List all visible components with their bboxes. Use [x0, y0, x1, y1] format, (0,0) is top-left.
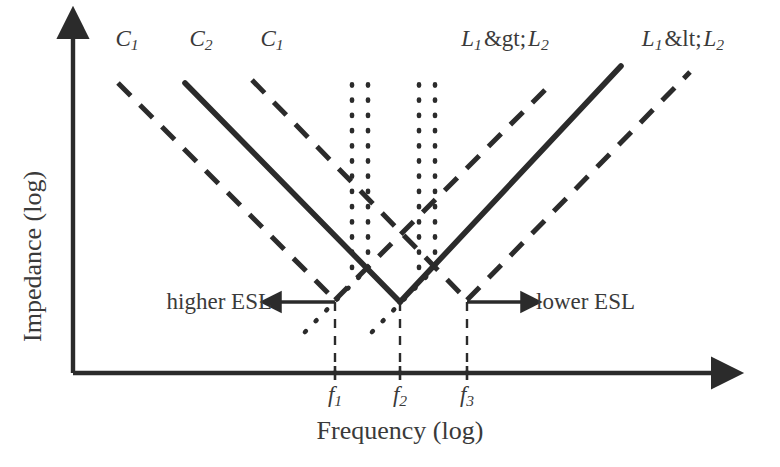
capacitive-branch-left-label: C1: [115, 27, 138, 53]
higher-esl-label: higher ESL: [167, 290, 272, 313]
figure-canvas: C1 C2 C1 L1&gt;L2 L1&lt;L2 higher ESL lo…: [0, 0, 780, 467]
axes-layer: [73, 34, 716, 373]
dotted-resonance-curve-left: [305, 72, 368, 332]
tick-layer: [335, 302, 467, 380]
curve-c2-solid: [185, 66, 621, 302]
y-axis-title: Impedance (log): [20, 171, 46, 342]
tick-label-f2: f2: [393, 383, 407, 409]
curve-c1-l1-dashed: [118, 83, 552, 300]
inductive-branch-higher-esl-label: L1&gt;L2: [461, 27, 548, 53]
impedance-frequency-diagram: [0, 0, 780, 467]
capacitive-branch-mid-label: C2: [189, 27, 212, 53]
lower-esl-label: lower ESL: [536, 290, 635, 313]
capacitive-branch-right-label: C1: [260, 27, 283, 53]
greater-than-sign: &gt;: [482, 26, 528, 51]
tick-label-f1: f1: [328, 383, 342, 409]
curve-c1-l2-dashed: [252, 72, 690, 300]
inductive-branch-lower-esl-label: L1&lt;L2: [642, 27, 724, 53]
less-than-sign: &lt;: [662, 26, 703, 51]
dotted-resonance-curve-right: [372, 72, 435, 332]
x-axis-title: Frequency (log): [317, 418, 484, 444]
tick-label-f3: f3: [460, 383, 474, 409]
